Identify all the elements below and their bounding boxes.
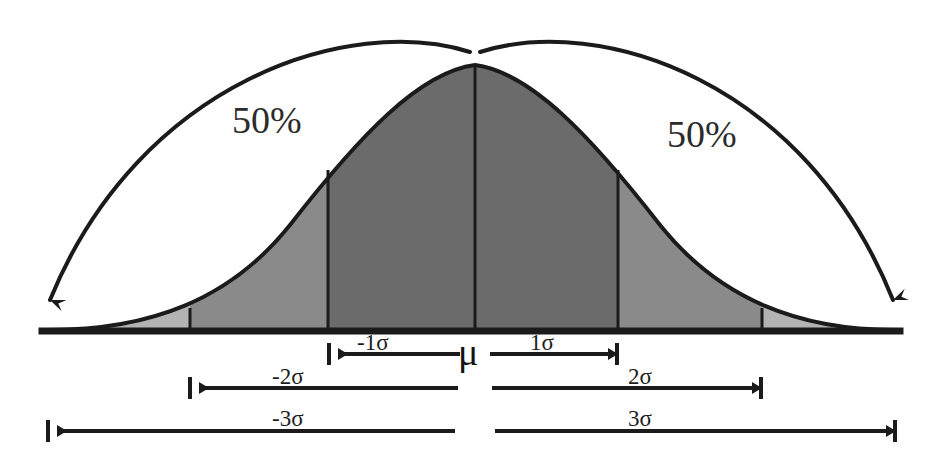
label-plus-1-sigma: 1σ	[530, 330, 554, 356]
label-minus-2-sigma: -2σ	[272, 364, 304, 390]
distribution-bands	[48, 65, 895, 330]
label-minus-1-sigma: -1σ	[357, 330, 389, 356]
label-mean-mu: μ	[458, 333, 478, 371]
distribution-diagram	[0, 0, 941, 463]
label-50-percent-right: 50%	[667, 112, 737, 156]
normal-distribution-figure: 50% 50% μ -1σ 1σ -2σ 2σ -3σ 3σ	[0, 0, 941, 463]
label-minus-3-sigma: -3σ	[272, 406, 304, 432]
label-plus-2-sigma: 2σ	[628, 364, 652, 390]
band-core-left	[48, 65, 895, 330]
label-50-percent-left: 50%	[232, 98, 302, 142]
label-plus-3-sigma: 3σ	[628, 406, 652, 432]
measure-row-3sigma	[48, 420, 895, 442]
